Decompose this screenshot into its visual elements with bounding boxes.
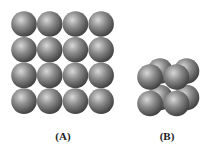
sphere-b-front-r2-c1 xyxy=(137,91,163,117)
sphere-a-r3-c4 xyxy=(88,63,114,89)
sphere-a-r1-c2 xyxy=(37,11,63,37)
panel-b-label: (B) xyxy=(160,130,175,142)
panel-a-square-packing xyxy=(11,11,114,114)
sphere-a-r1-c1 xyxy=(11,11,37,37)
sphere-a-r2-c1 xyxy=(11,37,37,63)
sphere-a-r3-c1 xyxy=(11,63,37,89)
sphere-a-r4-c2 xyxy=(37,88,63,114)
sphere-a-r2-c4 xyxy=(88,37,114,63)
sphere-b-front-r1-c1 xyxy=(137,64,163,90)
sphere-packing-figure xyxy=(0,0,209,153)
sphere-a-r3-c2 xyxy=(37,63,63,89)
sphere-a-r1-c4 xyxy=(88,11,114,37)
sphere-a-r2-c2 xyxy=(37,37,63,63)
sphere-a-r3-c3 xyxy=(63,63,89,89)
sphere-a-r2-c3 xyxy=(63,37,89,63)
panel-b-cubic-cell xyxy=(137,58,199,116)
panel-a-label: (A) xyxy=(55,130,70,142)
sphere-a-r4-c3 xyxy=(63,88,89,114)
sphere-b-front-r2-c2 xyxy=(164,91,190,117)
sphere-a-r1-c3 xyxy=(63,11,89,37)
sphere-a-r4-c4 xyxy=(88,88,114,114)
sphere-b-front-r1-c2 xyxy=(164,64,190,90)
sphere-a-r4-c1 xyxy=(11,88,37,114)
